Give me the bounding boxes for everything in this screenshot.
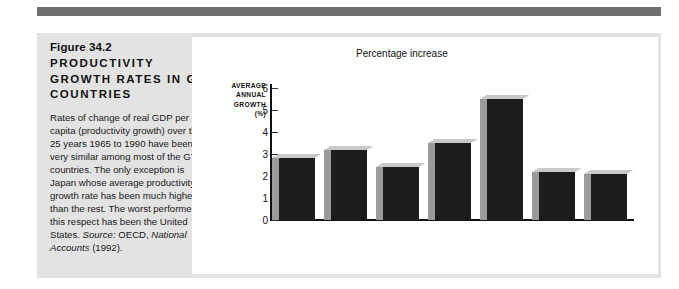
figure-caption: Rates of change of real GDP per capita (…	[50, 111, 205, 255]
y-tick-label: 5	[244, 105, 268, 116]
bar-front-face	[331, 150, 367, 220]
bar	[539, 172, 575, 220]
y-tick-mark	[272, 220, 278, 221]
y-tick-label: 0	[244, 215, 268, 226]
bar-side-face	[324, 150, 331, 220]
plot-region: Percentage increase 0123456 CanadaFrance…	[270, 88, 634, 220]
chart-area: AVERAGE ANNUAL GROWTH (%) Percentage inc…	[192, 37, 658, 274]
bar	[435, 143, 471, 220]
bar-side-face	[532, 172, 539, 220]
bar	[487, 99, 523, 220]
bar-side-face	[272, 158, 279, 220]
y-tick-mark	[272, 88, 278, 89]
bar	[331, 150, 367, 220]
bar-side-face	[376, 167, 383, 220]
bar-front-face	[591, 174, 627, 220]
caption-body: Rates of change of real GDP per capita (…	[50, 112, 205, 241]
y-tick-mark	[272, 132, 278, 133]
caption-source-lead: Source:	[83, 229, 116, 240]
y-tick-label: 4	[244, 127, 268, 138]
figure-text-column: Figure 34.2 PRODUCTIVITY GROWTH RATES IN…	[50, 41, 205, 255]
bar	[383, 167, 419, 220]
figure-title: PRODUCTIVITY GROWTH RATES IN G7 COUNTRIE…	[50, 56, 205, 103]
bar-front-face	[435, 143, 471, 220]
bar-side-face	[584, 174, 591, 220]
y-tick-label: 1	[244, 193, 268, 204]
figure-panel: Figure 34.2 PRODUCTIVITY GROWTH RATES IN…	[37, 33, 661, 278]
bar-side-face	[428, 143, 435, 220]
plot-annotation: Percentage increase	[356, 48, 448, 59]
caption-source-year: (1992).	[92, 242, 122, 253]
bar	[279, 158, 315, 220]
bar-front-face	[539, 172, 575, 220]
caption-source-org: OECD,	[118, 229, 148, 240]
figure-number: Figure 34.2	[50, 41, 205, 53]
top-decorative-rule	[37, 7, 661, 16]
y-tick-label: 6	[244, 83, 268, 94]
bar-front-face	[279, 158, 315, 220]
y-tick-label: 3	[244, 149, 268, 160]
bar-front-face	[383, 167, 419, 220]
y-tick-mark	[272, 110, 278, 111]
bar-side-face	[480, 99, 487, 220]
y-tick-label: 2	[244, 171, 268, 182]
bar-front-face	[487, 99, 523, 220]
bar	[591, 174, 627, 220]
